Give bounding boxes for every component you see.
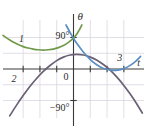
y-axis-label: θ — [78, 10, 84, 22]
curve-1-label: 1 — [19, 33, 24, 44]
curve-3-label: 3 — [116, 52, 122, 63]
curve-2-label: 2 — [11, 73, 16, 84]
origin-label: 0 — [64, 71, 69, 82]
x-axis-label: t — [137, 57, 140, 68]
phase-plot-figure: θ t 90° −90° 0 1 2 3 — [0, 0, 147, 129]
y-tick-label-90: 90° — [56, 30, 70, 41]
y-tick-label-neg90: −90° — [50, 102, 70, 113]
plot-canvas: θ t 90° −90° 0 1 2 3 — [0, 0, 147, 129]
